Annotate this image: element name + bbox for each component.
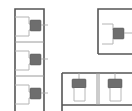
stall-bottom-stall-2: [108, 73, 122, 101]
fixture-wc-right-1: [113, 28, 124, 39]
fixture-bowl-wc-bottom-1: [74, 88, 85, 101]
floor-plan-drawing: [0, 0, 132, 111]
fixture-wc-left-3: [30, 88, 41, 99]
fixture-bowl-wc-bottom-2: [110, 88, 121, 101]
stall-left-stall-1: [15, 17, 48, 36]
fixture-wc-left-2: [30, 54, 41, 65]
stall-bottom-stall-1: [72, 73, 86, 101]
stall-left-stall-3: [15, 85, 48, 104]
block-lower-right-row: [62, 73, 132, 111]
block-upper-right-room: [98, 9, 132, 54]
fixture-wc-left-1: [30, 20, 41, 31]
stall-right-stall-1: [102, 24, 132, 44]
fixture-tank-wc-bottom-1: [72, 79, 86, 88]
stall-left-stall-2: [15, 51, 48, 70]
floor-plan-canvas: [0, 0, 132, 111]
block-left-stall-column: [15, 9, 48, 111]
fixture-tank-wc-bottom-2: [108, 79, 122, 88]
